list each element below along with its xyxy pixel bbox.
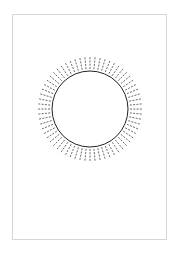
radial-tick xyxy=(75,147,79,159)
radial-circle-diagram xyxy=(0,0,182,253)
radial-tick xyxy=(94,149,95,162)
radial-tick xyxy=(102,147,106,159)
radial-tick xyxy=(98,57,101,70)
radial-tick xyxy=(109,144,115,155)
radial-tick xyxy=(129,117,142,120)
center-circle xyxy=(52,71,128,147)
radial-tick xyxy=(94,56,95,69)
radial-tick xyxy=(102,58,106,70)
radial-tick xyxy=(85,149,86,162)
radial-tick xyxy=(39,121,51,125)
radial-tick xyxy=(128,121,140,125)
radial-tick xyxy=(70,60,75,72)
radial-tick xyxy=(105,146,110,158)
radial-tick xyxy=(38,99,51,102)
radial-tick xyxy=(65,144,71,155)
radial-tick xyxy=(127,89,139,94)
radial-tick xyxy=(125,84,136,90)
radial-tick xyxy=(39,94,51,98)
radial-tick xyxy=(128,94,140,98)
radial-tick xyxy=(130,113,143,114)
radial-tick xyxy=(70,146,75,158)
radial-tick xyxy=(129,99,142,102)
radial-tick xyxy=(85,56,86,69)
radial-tick xyxy=(38,117,51,120)
radial-tick xyxy=(80,57,83,70)
radial-tick xyxy=(37,113,50,114)
radial-tick xyxy=(75,58,79,70)
radial-tick xyxy=(130,104,143,105)
radial-tick xyxy=(109,62,115,73)
radial-tick xyxy=(37,104,50,105)
radial-ticks xyxy=(37,56,143,162)
radial-tick xyxy=(43,128,54,134)
radial-tick xyxy=(127,124,139,129)
radial-tick xyxy=(80,148,83,161)
radial-tick xyxy=(41,124,53,129)
radial-tick xyxy=(43,84,54,90)
radial-tick xyxy=(65,62,71,73)
radial-tick xyxy=(98,148,101,161)
radial-tick xyxy=(125,128,136,134)
radial-tick xyxy=(105,60,110,72)
radial-tick xyxy=(41,89,53,94)
